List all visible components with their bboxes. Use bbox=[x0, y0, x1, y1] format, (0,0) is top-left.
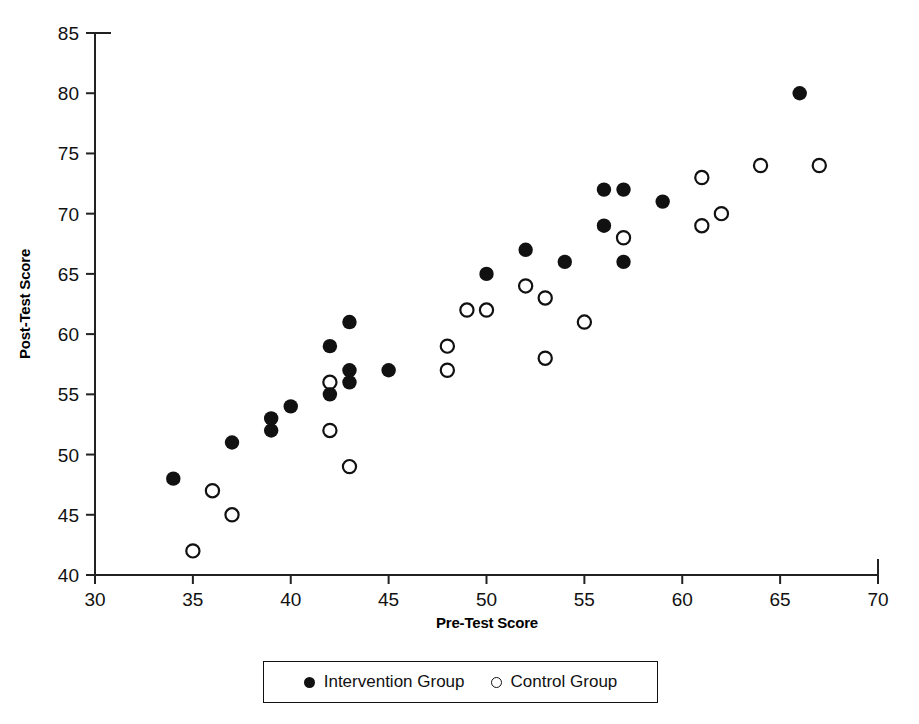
x-axis-tick-labels: 303540455055606570 bbox=[84, 589, 888, 610]
data-point bbox=[264, 411, 278, 425]
data-point bbox=[441, 364, 454, 377]
x-tick-label: 35 bbox=[182, 589, 203, 610]
y-axis-ticks bbox=[86, 33, 95, 575]
y-axis-title: Post-Test Score bbox=[16, 249, 33, 359]
data-point bbox=[343, 460, 356, 473]
y-tick-label: 75 bbox=[58, 143, 79, 164]
data-point bbox=[460, 303, 473, 316]
data-point bbox=[616, 182, 630, 196]
legend-label-intervention-group: Intervention Group bbox=[324, 672, 465, 692]
x-tick-label: 55 bbox=[574, 589, 595, 610]
filled-circle-icon bbox=[304, 677, 315, 688]
data-point bbox=[518, 243, 532, 257]
y-tick-label: 85 bbox=[58, 23, 79, 44]
y-tick-label: 80 bbox=[58, 83, 79, 104]
legend-item-intervention-group: Intervention Group bbox=[304, 672, 465, 692]
data-point bbox=[186, 544, 199, 557]
y-tick-label: 60 bbox=[58, 324, 79, 345]
y-axis-tick-labels: 40455055606570758085 bbox=[58, 23, 79, 586]
series-control-group-points bbox=[186, 159, 826, 558]
data-point bbox=[558, 255, 572, 269]
data-point bbox=[617, 231, 630, 244]
data-point bbox=[793, 86, 807, 100]
data-point bbox=[225, 508, 238, 521]
data-point bbox=[519, 279, 532, 292]
data-point bbox=[578, 315, 591, 328]
data-point bbox=[480, 303, 493, 316]
y-tick-label: 65 bbox=[58, 264, 79, 285]
data-point bbox=[342, 363, 356, 377]
x-tick-label: 60 bbox=[672, 589, 693, 610]
data-point bbox=[342, 315, 356, 329]
y-tick-label: 70 bbox=[58, 204, 79, 225]
data-point bbox=[323, 424, 336, 437]
data-point bbox=[539, 291, 552, 304]
x-tick-label: 40 bbox=[280, 589, 301, 610]
data-point bbox=[323, 376, 336, 389]
data-point bbox=[323, 339, 337, 353]
data-point bbox=[695, 171, 708, 184]
plot-canvas: 303540455055606570 40455055606570758085 … bbox=[0, 0, 919, 650]
data-point bbox=[479, 267, 493, 281]
data-point bbox=[813, 159, 826, 172]
x-axis-ticks bbox=[95, 575, 878, 584]
legend: Intervention Group Control Group bbox=[263, 661, 658, 703]
legend-item-control-group: Control Group bbox=[491, 672, 618, 692]
data-point bbox=[441, 340, 454, 353]
data-point bbox=[695, 219, 708, 232]
x-tick-label: 65 bbox=[770, 589, 791, 610]
open-circle-icon bbox=[491, 677, 502, 688]
data-point bbox=[539, 352, 552, 365]
data-point bbox=[655, 194, 669, 208]
data-point bbox=[206, 484, 219, 497]
y-tick-label: 55 bbox=[58, 384, 79, 405]
data-point bbox=[616, 255, 630, 269]
x-axis-title: Pre-Test Score bbox=[436, 614, 538, 631]
data-point bbox=[754, 159, 767, 172]
x-tick-label: 50 bbox=[476, 589, 497, 610]
x-tick-label: 45 bbox=[378, 589, 399, 610]
y-tick-label: 45 bbox=[58, 505, 79, 526]
data-point bbox=[597, 219, 611, 233]
legend-label-control-group: Control Group bbox=[511, 672, 618, 692]
data-point bbox=[597, 182, 611, 196]
data-point bbox=[284, 399, 298, 413]
data-point bbox=[225, 435, 239, 449]
x-tick-label: 70 bbox=[867, 589, 888, 610]
data-point bbox=[323, 387, 337, 401]
y-tick-label: 50 bbox=[58, 445, 79, 466]
scatter-plot-figure: 303540455055606570 40455055606570758085 … bbox=[0, 0, 919, 724]
data-point bbox=[166, 471, 180, 485]
data-point bbox=[715, 207, 728, 220]
data-point bbox=[381, 363, 395, 377]
x-tick-label: 30 bbox=[84, 589, 105, 610]
y-tick-label: 40 bbox=[58, 565, 79, 586]
series-intervention-group-points bbox=[166, 86, 807, 486]
